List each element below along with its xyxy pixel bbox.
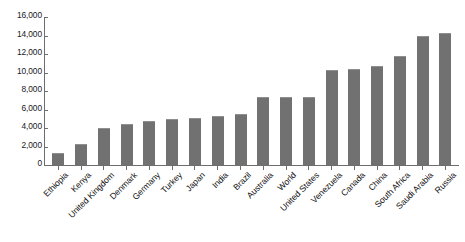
bar [52, 153, 64, 165]
y-axis-tick-label: 10,000 [17, 66, 42, 76]
bar-slot [206, 17, 229, 165]
bar [348, 69, 360, 165]
y-axis-tick-label: 14,000 [17, 29, 42, 39]
bar [280, 97, 292, 165]
bar-slot [320, 17, 343, 165]
y-axis-tick-label: 2,000 [22, 140, 42, 150]
bar [394, 56, 406, 165]
bar [143, 121, 155, 165]
bar [75, 144, 87, 165]
bar-slot [297, 17, 320, 165]
bar-slot [47, 17, 70, 165]
bar [303, 97, 315, 165]
y-axis-tick-label: 0 [37, 158, 42, 168]
bar [98, 128, 110, 165]
bar-slot [161, 17, 184, 165]
bar-slot [138, 17, 161, 165]
x-axis-label: Turkey [159, 170, 184, 195]
y-axis-tick-label: 6,000 [22, 103, 42, 113]
x-axis-label: India [210, 170, 230, 190]
bar-slot [343, 17, 366, 165]
bar-chart: 16,00014,00012,00010,0008,0006,0004,0002… [0, 0, 465, 242]
bar-slot [388, 17, 411, 165]
x-axis-label: Ethiopia [42, 170, 71, 199]
bar-slot [434, 17, 457, 165]
bar [189, 118, 201, 165]
x-axis-label: Canada [338, 170, 366, 198]
y-axis-tick-label: 8,000 [22, 84, 42, 94]
x-axis-labels: EthiopiaKenyaUnited KingdomDenmarkGerman… [45, 170, 459, 242]
bar-slot [275, 17, 298, 165]
bar-slot [366, 17, 389, 165]
bar [417, 36, 429, 165]
bar [326, 70, 338, 165]
x-axis-label: Russia [432, 170, 457, 195]
bar [121, 124, 133, 165]
bar [439, 33, 451, 165]
bar [212, 116, 224, 165]
bar-slot [411, 17, 434, 165]
bar-series [45, 17, 459, 165]
x-axis-label: Japan [184, 170, 207, 193]
bar-slot [70, 17, 93, 165]
bar-slot [93, 17, 116, 165]
y-axis-tick-label: 4,000 [22, 121, 42, 131]
bar [371, 66, 383, 165]
y-axis-tick-label: 16,000 [17, 10, 42, 20]
bar [257, 97, 269, 165]
y-axis-tick-label: 12,000 [17, 47, 42, 57]
bar-slot [115, 17, 138, 165]
bar [235, 114, 247, 165]
bar-slot [229, 17, 252, 165]
bar-slot [184, 17, 207, 165]
bar [166, 119, 178, 165]
bar-slot [252, 17, 275, 165]
